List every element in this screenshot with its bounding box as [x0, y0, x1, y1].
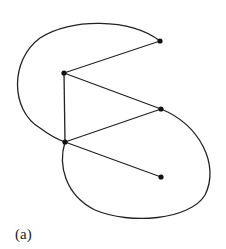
straight-edge — [64, 41, 160, 73]
straight-edge — [64, 73, 65, 142]
nodes-group — [61, 38, 163, 179]
edges-group — [18, 23, 210, 218]
graph-node-v4 — [62, 139, 67, 144]
straight-edge — [64, 73, 161, 109]
graph-node-v1 — [157, 38, 162, 43]
straight-edge — [65, 142, 161, 177]
graph-node-v2 — [61, 70, 66, 75]
straight-edge — [65, 109, 161, 142]
curved-edge — [63, 109, 210, 218]
figure-caption: (a) — [15, 226, 32, 243]
graph-node-v5 — [158, 174, 163, 179]
graph-diagram — [0, 0, 226, 249]
graph-node-v3 — [158, 106, 163, 111]
